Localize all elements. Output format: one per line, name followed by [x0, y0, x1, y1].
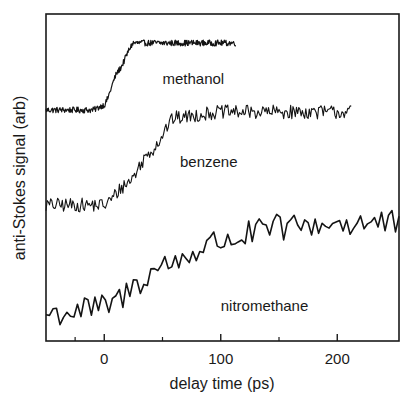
x-tick-label: 200	[325, 350, 350, 367]
x-axis-tick-labels: 0100200	[100, 350, 350, 367]
series-label-benzene: benzene	[180, 153, 238, 170]
plot-frame	[46, 14, 399, 341]
y-axis-label: anti-Stokes signal (arb)	[11, 96, 28, 261]
x-tick-label: 0	[100, 350, 108, 367]
series-label-nitromethane: nitromethane	[221, 297, 309, 314]
x-axis-label: delay time (ps)	[170, 375, 275, 392]
x-axis-ticks	[75, 334, 337, 341]
chart: 0100200 delay time (ps) anti-Stokes sign…	[0, 0, 409, 409]
x-tick-label: 100	[208, 350, 233, 367]
series-label-methanol: methanol	[163, 70, 225, 87]
